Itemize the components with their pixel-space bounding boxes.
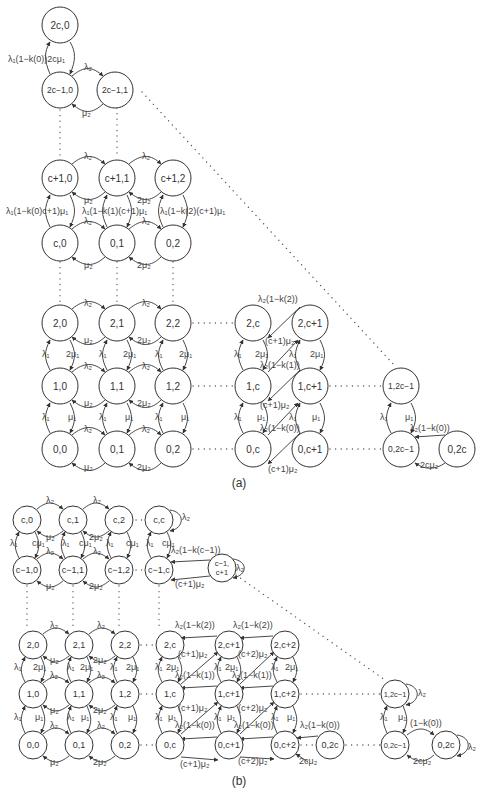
- state-label: 0,2c: [437, 740, 455, 750]
- transition-rate-label: λ₁: [67, 662, 75, 672]
- transition-rate-label: λ₂(1−k(1)): [175, 670, 215, 680]
- transition-rate-label: λ₂: [182, 512, 191, 522]
- state-label: 2,c: [246, 318, 259, 329]
- state-node: 1,2c−1: [381, 680, 409, 708]
- state-node: c,c: [145, 506, 173, 534]
- transition-rate-label: λ₁: [146, 538, 154, 548]
- transition-rate-label: λ₂(1−k(1)): [232, 670, 272, 680]
- transition-rate-label: λ₁: [271, 662, 279, 672]
- transition-rate-label: λ₂(1−k(2)): [233, 620, 273, 630]
- state-label: 0,2: [166, 238, 180, 249]
- transition-rate-label: λ₁(1−k(1)(c+1)μ₁: [82, 206, 147, 216]
- transition-rate-label: λ₂(1−k(c−1)): [171, 545, 221, 555]
- state-node: c−1,c+1: [208, 554, 236, 582]
- transition-rate-label: λ₁: [289, 412, 297, 422]
- state-label: 0,0: [53, 444, 67, 455]
- state-node: 1,c+1: [292, 368, 328, 404]
- state-node: 0,2c−1: [381, 731, 409, 759]
- state-label: 1,1: [110, 381, 124, 392]
- state-node: 2,1: [99, 305, 135, 341]
- transition-rate-label: λ₁: [380, 412, 388, 422]
- transition-rate-label: μ₂: [50, 705, 59, 715]
- transition-rate-label: λ₂: [236, 563, 245, 573]
- state-node: 2,0: [42, 305, 78, 341]
- state-node: 0,2: [155, 225, 191, 261]
- transition-rate-label: λ₂: [418, 688, 427, 698]
- state-label: c−1,c: [148, 565, 170, 575]
- caption-b: (b): [232, 774, 247, 788]
- transition-rate-label: μ₁: [181, 412, 189, 422]
- state-label: c−1,1: [62, 565, 84, 575]
- transition-rate-label: (1−k(0)): [410, 718, 442, 728]
- transition-rate-label: λ₂(1−k(2)): [258, 294, 298, 304]
- state-label: c−1,2: [108, 565, 130, 575]
- transition-rate-label: 2μ₁: [310, 349, 323, 359]
- transition-rate-label: λ₁: [155, 412, 163, 422]
- state-label: 2,0: [53, 318, 67, 329]
- transition-rate-label: λ₂: [97, 720, 106, 730]
- state-node: 1,2c−1: [383, 368, 419, 404]
- state-label: 2,2: [166, 318, 180, 329]
- state-node: c,1: [59, 506, 87, 534]
- transition-rate-label: λ₁: [110, 712, 118, 722]
- state-label: 2,c+2: [274, 640, 296, 650]
- transition-rate-label: λ₂: [142, 361, 151, 371]
- transition-rate-label: μ₂: [46, 532, 55, 542]
- transition-rate-label: λ₂(1−k(0)): [300, 720, 340, 730]
- state-node: 0,c: [156, 731, 184, 759]
- transition-rate-label: μ₁: [128, 712, 136, 722]
- state-label: 0,0: [27, 740, 40, 750]
- state-node: 0,1: [65, 731, 93, 759]
- state-node: 0,2c: [316, 731, 344, 759]
- transition-rate-label: λ₁: [110, 662, 118, 672]
- transition-rate-label: μ₁: [68, 412, 76, 422]
- transition-rate-label: (c+1)μ₂: [180, 759, 210, 769]
- transition-rate-label: μ₁: [312, 412, 320, 422]
- transition-rate-label: λ₁: [155, 349, 163, 359]
- state-label: c+1,2: [161, 173, 186, 184]
- transition-rate-label: (c+2)μ₂: [238, 649, 268, 659]
- transition-rate-label: μ₂: [84, 260, 93, 270]
- transition-rate-label: λ₁(1−k(2)(c+1)μ₁: [160, 206, 225, 216]
- transition-rate-label: λ₁: [234, 412, 242, 422]
- transition-rate-label: λ₂(1−k(0)): [410, 423, 450, 433]
- state-label: 0,c+2: [274, 740, 296, 750]
- state-label: c,0: [21, 515, 33, 525]
- transition-rate-label: μ₁: [398, 712, 406, 722]
- transition-rate-label: μ₁: [257, 412, 265, 422]
- state-node: 0,1: [99, 431, 135, 467]
- state-label: 0,2c: [448, 444, 467, 455]
- state-label: 1,2c−1: [388, 381, 414, 391]
- state-label: 0,c: [164, 740, 177, 750]
- transition-rate-label: λ₂(1−k(0)): [260, 423, 300, 433]
- state-label: 1,1: [73, 689, 86, 699]
- state-label: 1,c+1: [298, 381, 323, 392]
- state-label: 0,2: [119, 740, 132, 750]
- transition-rate-label: λ₂: [97, 620, 106, 630]
- state-label: 2c,0: [51, 20, 70, 31]
- transition-rate-label: λ₂(1−k(1)): [260, 360, 300, 370]
- state-node: 0,1: [99, 225, 135, 261]
- transition-rate-label: λ₂: [142, 424, 151, 434]
- state-node: 0,c: [235, 431, 271, 467]
- transition-rate-label: 2μ₂: [89, 581, 103, 591]
- transition-rate-label: λ₁: [289, 349, 297, 359]
- state-node: 1,0: [19, 680, 47, 708]
- state-label: 1,2: [166, 381, 180, 392]
- transition-rate-label: λ₁: [99, 412, 107, 422]
- transition-rate-label: (c+2)μ₂: [238, 703, 268, 713]
- state-node: 1,c+2: [271, 680, 299, 708]
- state-node: 1,2: [155, 368, 191, 404]
- transition-rate-label: 2μ₁: [33, 662, 46, 672]
- transition-rate-label: cμ₁: [79, 538, 92, 548]
- state-label: c,2: [113, 515, 125, 525]
- state-label: 1,0: [27, 689, 40, 699]
- transition-rate-label: 2μ₂: [137, 462, 151, 472]
- diagram-a-rate-labels: λ₁(1−k(0))2cμ₁λ₂μ₂λ₂λ₂μ₂2μ₂λ₁(1−k(0)c+1)…: [6, 54, 450, 474]
- transition-rate-label: λ₁: [214, 712, 222, 722]
- transition-rate-label: 2cμ₂: [420, 460, 439, 470]
- transition-rate-label: 2μ₁: [123, 349, 136, 359]
- state-node: c+1,2: [155, 160, 191, 196]
- state-label: 2,c: [164, 640, 177, 650]
- state-label: c−1,0: [16, 565, 38, 575]
